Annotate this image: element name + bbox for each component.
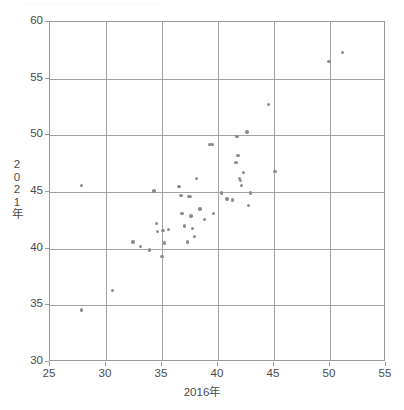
gridline-vertical: [274, 22, 275, 360]
data-point: [327, 60, 330, 63]
x-tick-mark: [105, 362, 106, 366]
data-point: [155, 222, 158, 225]
data-point: [186, 240, 189, 243]
data-point: [212, 212, 215, 215]
x-tick-mark: [329, 362, 330, 366]
x-tick-label: 45: [253, 368, 293, 379]
data-point: [231, 198, 234, 201]
data-point: [341, 51, 344, 54]
y-tick-label: 45: [1, 185, 43, 196]
data-point: [188, 195, 191, 198]
data-point: [211, 143, 214, 146]
data-point: [193, 235, 196, 238]
x-tick-label: 30: [85, 368, 125, 379]
data-point: [161, 229, 164, 232]
y-axis-title-char: 2: [10, 158, 24, 171]
x-tick-label: 40: [197, 368, 237, 379]
data-point: [191, 227, 194, 230]
y-tick-label: 50: [1, 128, 43, 139]
y-tick-label: 60: [1, 15, 43, 26]
gridline-vertical: [106, 22, 107, 360]
data-point: [247, 204, 250, 207]
gridline-vertical: [330, 22, 331, 360]
data-point: [189, 214, 192, 217]
x-tick-mark: [49, 362, 50, 366]
x-tick-label: 25: [29, 368, 69, 379]
gridline-horizontal: [50, 305, 384, 306]
x-tick-label: 50: [309, 368, 349, 379]
y-tick-label: 30: [1, 355, 43, 366]
data-point: [242, 171, 245, 174]
data-point: [167, 228, 170, 231]
data-point: [235, 135, 238, 138]
x-tick-label: 35: [141, 368, 181, 379]
data-point: [183, 224, 186, 227]
data-point: [198, 207, 201, 210]
x-tick-mark: [217, 362, 218, 366]
data-point: [249, 191, 252, 194]
data-point: [195, 177, 198, 180]
data-point: [239, 179, 242, 182]
y-axis-title-char: 1: [10, 196, 24, 209]
data-point: [273, 170, 276, 173]
data-point: [163, 241, 166, 244]
data-point: [111, 289, 114, 292]
data-point: [179, 194, 182, 197]
y-axis-title-char: 年: [10, 208, 24, 221]
x-tick-mark: [385, 362, 386, 366]
data-point: [240, 184, 243, 187]
data-point: [220, 191, 223, 194]
gridline-horizontal: [50, 249, 384, 250]
y-tick-label: 35: [1, 298, 43, 309]
data-point: [148, 248, 151, 251]
data-point: [203, 218, 206, 221]
data-point: [245, 130, 248, 133]
top-edge-artifact: [22, 3, 162, 6]
data-point: [180, 212, 183, 215]
x-tick-mark: [161, 362, 162, 366]
data-point: [177, 185, 180, 188]
data-point: [160, 255, 163, 258]
gridline-horizontal: [50, 192, 384, 193]
y-tick-label: 40: [1, 242, 43, 253]
gridline-horizontal: [50, 79, 384, 80]
data-point: [236, 154, 239, 157]
data-point: [152, 189, 155, 192]
x-tick-mark: [273, 362, 274, 366]
data-point: [156, 230, 159, 233]
data-point: [139, 245, 142, 248]
gridline-vertical: [162, 22, 163, 360]
data-point: [131, 240, 134, 243]
data-point: [234, 161, 237, 164]
gridline-vertical: [218, 22, 219, 360]
x-axis-title: 2016年: [0, 383, 404, 399]
data-point: [80, 184, 83, 187]
x-tick-label: 55: [365, 368, 404, 379]
data-point: [267, 103, 270, 106]
plot-area: [49, 21, 385, 361]
gridline-horizontal: [50, 135, 384, 136]
y-tick-label: 55: [1, 72, 43, 83]
y-axis-title-char: 0: [10, 171, 24, 184]
data-point: [225, 197, 228, 200]
scatter-chart: 2 0 2 1 年 2016年 30354045505560 253035404…: [0, 0, 404, 410]
data-point: [80, 308, 83, 311]
